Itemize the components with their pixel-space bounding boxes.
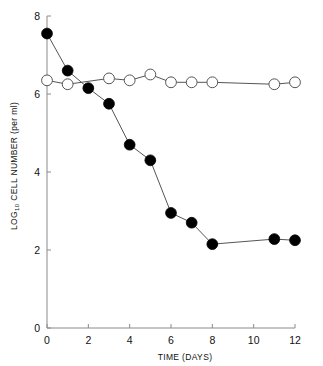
series-open-circles (42, 69, 301, 90)
x-tick-label: 10 (248, 334, 260, 346)
data-point-marker (145, 69, 156, 80)
x-tick-label: 0 (44, 334, 50, 346)
y-tick-label: 8 (34, 10, 40, 22)
svg-text:LOG10 CELL NUMBER (per ml): LOG10 CELL NUMBER (per ml) (9, 102, 20, 230)
data-point-marker (104, 98, 115, 109)
data-point-marker (83, 83, 94, 94)
series-filled-circles (42, 28, 301, 249)
x-tick-label: 12 (289, 334, 301, 346)
x-tick-label: 2 (85, 334, 91, 346)
y-tick-label: 4 (34, 166, 40, 178)
axes (47, 16, 295, 328)
y-axis-title-text: CELL NUMBER (per ml) (9, 102, 19, 201)
x-tick-label: 8 (209, 334, 215, 346)
data-point-marker (62, 79, 73, 90)
data-point-marker (269, 79, 280, 90)
data-point-marker (186, 77, 197, 88)
data-point-marker (186, 217, 197, 228)
data-point-marker (290, 77, 301, 88)
data-point-marker (145, 155, 156, 166)
y-axis-title-prefix: LOG (9, 211, 19, 230)
x-axis-tick-labels: 024681012 (44, 334, 301, 346)
y-axis-tick-labels: 02468 (34, 10, 40, 334)
data-point-marker (269, 234, 280, 245)
y-axis-title: LOG10 CELL NUMBER (per ml) (9, 102, 20, 230)
data-point-marker (42, 28, 53, 39)
data-point-marker (124, 139, 135, 150)
data-point-marker (166, 208, 177, 219)
line-chart-plot: 024681012 02468 TIME (DAYS) LOG10 CELL N… (0, 0, 323, 366)
data-point-marker (207, 77, 218, 88)
data-point-marker (290, 235, 301, 246)
data-point-marker (207, 239, 218, 250)
data-point-marker (124, 75, 135, 86)
axis-ticks (47, 16, 295, 328)
data-point-marker (166, 77, 177, 88)
y-tick-label: 6 (34, 88, 40, 100)
chart-figure: 024681012 02468 TIME (DAYS) LOG10 CELL N… (0, 0, 323, 366)
x-tick-label: 4 (127, 334, 133, 346)
data-point-marker (62, 65, 73, 76)
data-point-marker (42, 75, 53, 86)
x-tick-label: 6 (168, 334, 174, 346)
data-point-marker (104, 73, 115, 84)
data-series-group (42, 28, 301, 249)
y-tick-label: 0 (34, 322, 40, 334)
y-tick-label: 2 (34, 244, 40, 256)
x-axis-title: TIME (DAYS) (158, 352, 213, 362)
